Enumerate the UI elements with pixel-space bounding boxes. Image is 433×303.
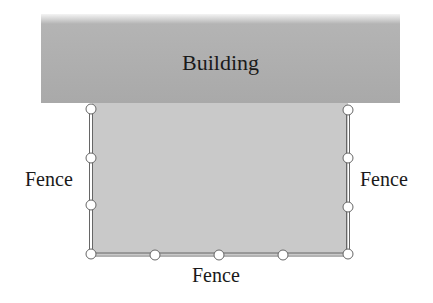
fence-post-icon — [214, 250, 224, 260]
fence-label-right: Fence — [360, 168, 408, 191]
fence-post-icon — [86, 104, 96, 114]
fence-post-icon — [86, 153, 96, 163]
fence-posts — [86, 104, 353, 260]
fence-label-left: Fence — [25, 168, 73, 191]
fence-post-icon — [343, 153, 353, 163]
fence-post-icon — [343, 105, 353, 115]
fence-post-icon — [86, 200, 96, 210]
fence-post-icon — [86, 249, 96, 259]
fence-post-icon — [150, 250, 160, 260]
fence-lines — [90, 109, 350, 256]
fence-post-icon — [278, 250, 288, 260]
fence — [0, 0, 433, 303]
fence-post-icon — [343, 202, 353, 212]
fence-post-icon — [343, 249, 353, 259]
fence-label-bottom: Fence — [192, 264, 240, 287]
